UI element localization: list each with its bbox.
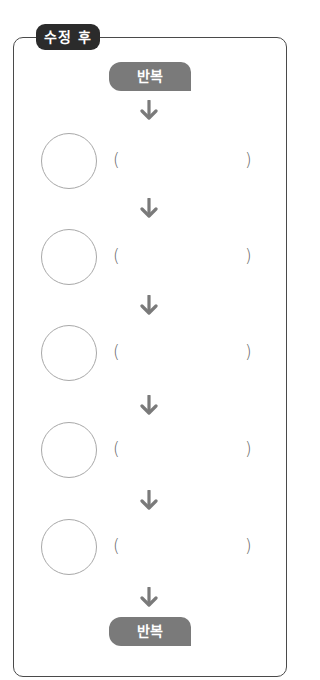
step-row-5: ( ): [41, 519, 271, 577]
answer-circle[interactable]: [41, 325, 97, 381]
arrow-down-icon: [140, 587, 158, 607]
answer-blank[interactable]: [127, 150, 239, 170]
answer-circle[interactable]: [41, 422, 97, 478]
step-row-1: ( ): [41, 133, 271, 191]
close-paren: ): [245, 150, 252, 170]
open-paren: (: [113, 342, 120, 362]
answer-blank[interactable]: [127, 342, 239, 362]
arrow-down-icon: [140, 490, 158, 510]
step-row-4: ( ): [41, 422, 271, 480]
close-paren: ): [245, 439, 252, 459]
open-paren: (: [113, 439, 120, 459]
arrow-down-icon: [140, 295, 158, 315]
answer-circle[interactable]: [41, 133, 97, 189]
answer-blank[interactable]: [127, 536, 239, 556]
step-row-2: ( ): [41, 229, 271, 287]
open-paren: (: [113, 150, 120, 170]
answer-blank[interactable]: [127, 246, 239, 266]
open-paren: (: [113, 536, 120, 556]
answer-circle[interactable]: [41, 519, 97, 575]
arrow-down-icon: [140, 100, 158, 120]
answer-blank[interactable]: [127, 439, 239, 459]
diagram-title: 수정 후: [36, 24, 100, 50]
close-paren: ): [245, 246, 252, 266]
close-paren: ): [245, 342, 252, 362]
close-paren: ): [245, 536, 252, 556]
end-loop-badge: 반복: [109, 617, 191, 646]
open-paren: (: [113, 246, 120, 266]
step-row-3: ( ): [41, 325, 271, 383]
start-loop-badge: 반복: [109, 62, 191, 91]
arrow-down-icon: [140, 395, 158, 415]
arrow-down-icon: [140, 198, 158, 218]
answer-circle[interactable]: [41, 229, 97, 285]
